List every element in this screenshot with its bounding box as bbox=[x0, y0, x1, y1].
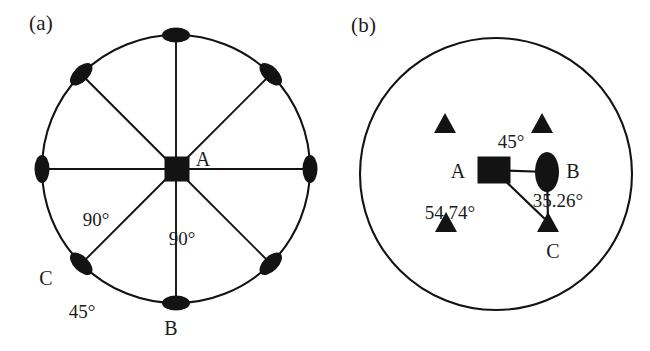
ligand-triangle-t1 bbox=[434, 113, 456, 133]
label-a-angle-left: 90° bbox=[83, 209, 110, 230]
label-a-angle-arc: 45° bbox=[69, 301, 96, 322]
panel-a: (a) A B C 90° 90° 45° bbox=[0, 0, 325, 351]
ligand-ellipse-left bbox=[35, 155, 50, 183]
figure-root: (a) A B C 90° 90° 45° (b) A B bbox=[0, 0, 650, 351]
spoke-lower-right bbox=[176, 169, 271, 264]
label-b-angle-bc: 35.26° bbox=[533, 190, 583, 211]
center-square-marker-a bbox=[165, 157, 190, 182]
ligand-ellipse-top bbox=[162, 28, 190, 43]
ligand-ellipse-B bbox=[535, 152, 559, 192]
label-b-B: B bbox=[566, 160, 579, 182]
panel-b-drawing: A B C 45° 35.26° 54.74° bbox=[325, 0, 650, 351]
ligand-ellipse-right bbox=[303, 155, 318, 183]
ligand-ellipse-bottom bbox=[162, 296, 190, 311]
label-a-A: A bbox=[196, 148, 211, 170]
label-b-angle-ac: 54.74° bbox=[425, 202, 475, 223]
label-a-B: B bbox=[164, 317, 177, 339]
label-b-angle-ab: 45° bbox=[498, 131, 525, 152]
label-b-A: A bbox=[451, 160, 466, 182]
label-a-C: C bbox=[39, 267, 52, 289]
label-b-C: C bbox=[546, 240, 559, 262]
spoke-upper-left bbox=[81, 74, 176, 169]
panel-b: (b) A B C 45° 35.26° 54.74° bbox=[325, 0, 650, 351]
ligand-triangle-t2 bbox=[531, 113, 553, 133]
center-square-marker-A bbox=[478, 157, 511, 184]
label-a-angle-right: 90° bbox=[169, 228, 196, 249]
panel-a-drawing: A B C 90° 90° 45° bbox=[0, 0, 325, 351]
spoke-upper-right bbox=[176, 74, 271, 169]
